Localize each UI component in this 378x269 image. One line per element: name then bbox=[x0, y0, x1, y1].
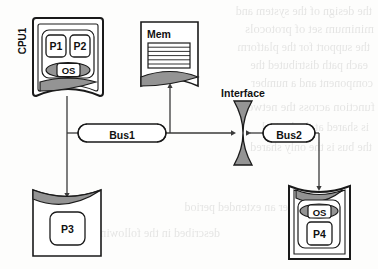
cpu1-label: CPU1 bbox=[17, 27, 28, 54]
p2-label: P2 bbox=[74, 40, 87, 52]
process-p2[interactable]: P2 bbox=[70, 35, 90, 57]
mem-base-arc bbox=[141, 72, 198, 87]
p4-label: P4 bbox=[313, 228, 326, 240]
arrow-out-interface bbox=[246, 130, 251, 136]
node-mem[interactable]: Mem bbox=[141, 22, 198, 86]
p1-label: P1 bbox=[50, 40, 63, 52]
p4-os-pill[interactable]: OS bbox=[300, 204, 338, 218]
node-cpu1[interactable]: P1 P2 OS CPU1 bbox=[17, 18, 103, 96]
p3-label: P3 bbox=[61, 223, 74, 235]
process-p4[interactable]: P4 bbox=[307, 222, 332, 245]
node-interface[interactable]: Interface bbox=[221, 87, 265, 165]
bus1-label: Bus1 bbox=[109, 129, 135, 141]
cpu1-os-pill[interactable]: OS bbox=[46, 63, 90, 78]
node-bus1[interactable]: Bus1 bbox=[78, 124, 166, 142]
bus2-label: Bus2 bbox=[276, 129, 302, 141]
node-p4[interactable]: OS P4 bbox=[289, 186, 350, 259]
mem-contents-block bbox=[148, 43, 190, 68]
arrow-into-interface bbox=[231, 130, 236, 136]
cpu1-os-label: OS bbox=[62, 65, 76, 76]
mem-label: Mem bbox=[147, 28, 171, 40]
node-p3[interactable]: P3 bbox=[33, 190, 101, 256]
process-p1[interactable]: P1 bbox=[46, 35, 66, 57]
interface-label: Interface bbox=[221, 87, 265, 99]
node-bus2[interactable]: Bus2 bbox=[263, 124, 315, 142]
architecture-diagram: P1 P2 OS CPU1 Mem bbox=[0, 0, 378, 269]
diagram-canvas: the design of the system and minimum set… bbox=[0, 0, 378, 269]
p4-os-label: OS bbox=[313, 207, 327, 218]
arrow-into-p4 bbox=[316, 186, 321, 191]
